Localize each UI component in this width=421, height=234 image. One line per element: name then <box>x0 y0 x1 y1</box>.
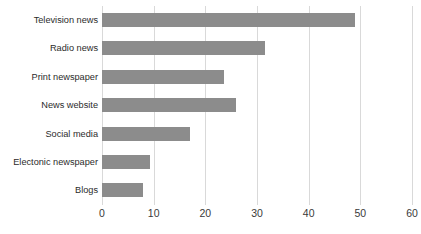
bar-row <box>102 91 412 119</box>
bar-row <box>102 148 412 176</box>
y-axis-label-3: News website <box>0 100 98 110</box>
y-axis-label-0: Television news <box>0 15 98 25</box>
bar-row <box>102 120 412 148</box>
bar-electonic-newspaper <box>102 155 150 169</box>
y-axis-label-1: Radio news <box>0 43 98 53</box>
y-axis-label-2: Print newspaper <box>0 72 98 82</box>
bar-row <box>102 6 412 34</box>
plot-area <box>102 6 412 205</box>
x-axis-tick-labels: 0 10 20 30 40 50 60 <box>0 207 421 227</box>
bar-row <box>102 34 412 62</box>
y-axis-category-labels: Television news Radio news Print newspap… <box>0 6 98 205</box>
bar-row <box>102 63 412 91</box>
bar-row <box>102 176 412 204</box>
y-axis-label-4: Social media <box>0 129 98 139</box>
bar-print-newspaper <box>102 70 224 84</box>
bar-news-website <box>102 98 236 112</box>
x-tick-label-0: 0 <box>99 207 105 219</box>
bar-blogs <box>102 183 143 197</box>
x-tick-label-40: 40 <box>303 207 315 219</box>
y-axis-label-6: Blogs <box>0 185 98 195</box>
x-tick-label-20: 20 <box>199 207 211 219</box>
y-axis-label-5: Electonic newspaper <box>0 157 98 167</box>
bar-radio-news <box>102 41 265 55</box>
x-tick-label-60: 60 <box>406 207 418 219</box>
bar-chart: Television news Radio news Print newspap… <box>0 0 421 234</box>
gridline-60 <box>412 6 413 205</box>
x-tick-label-30: 30 <box>251 207 263 219</box>
x-tick-label-50: 50 <box>354 207 366 219</box>
x-tick-label-10: 10 <box>148 207 160 219</box>
bar-social-media <box>102 127 190 141</box>
bar-television-news <box>102 13 355 27</box>
